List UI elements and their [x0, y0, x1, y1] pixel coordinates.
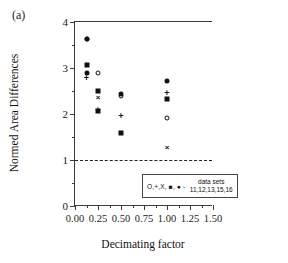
data-point-circle-filled [84, 37, 89, 42]
data-point-circle-filled [165, 78, 170, 83]
legend-text: data sets 11,12,13,15,16 [185, 178, 237, 194]
x-tick-major [75, 205, 76, 210]
x-tick-label: 0.50 [112, 213, 130, 224]
x-tick-major [98, 205, 99, 210]
legend-line-1: data sets [185, 178, 237, 186]
x-tick-major [121, 205, 122, 210]
x-tick-minor [133, 205, 134, 208]
x-tick-minor [110, 205, 111, 208]
x-tick-label: 0.25 [89, 213, 107, 224]
x-axis-title: Decimating factor [101, 238, 184, 250]
x-tick-label: 1.50 [204, 213, 222, 224]
x-tick-major [190, 205, 191, 210]
x-axis-line [74, 205, 212, 206]
data-point-circle-open [119, 93, 124, 98]
x-tick-major [167, 205, 168, 210]
y-tick-minor [72, 137, 75, 138]
figure-panel-a: (a) Normed Area Differences Decimating f… [0, 0, 288, 263]
data-point-square-filled [119, 130, 124, 135]
y-tick-minor [72, 45, 75, 46]
data-point-plus [164, 90, 171, 97]
legend-line-2: 11,12,13,15,16 [185, 186, 237, 194]
y-tick-major [70, 114, 75, 115]
x-tick-major [213, 205, 214, 210]
y-tick-major [70, 68, 75, 69]
x-tick-minor [202, 205, 203, 208]
x-tick-minor [179, 205, 180, 208]
data-point-circle-open [96, 70, 101, 75]
y-tick-label: 1 [63, 154, 69, 166]
data-point-circle-open [165, 115, 170, 120]
data-point-ex [164, 144, 171, 151]
x-tick-label: 0.00 [66, 213, 84, 224]
legend-box: O,+,X, ■, ● - data sets 11,12,13,15,16 [142, 174, 238, 198]
legend-symbols: O,+,X, ■, ● - [143, 183, 185, 190]
y-tick-major [70, 160, 75, 161]
x-tick-label: 1.25 [181, 213, 199, 224]
y-tick-label: 3 [63, 62, 69, 74]
x-tick-minor [87, 205, 88, 208]
data-point-square-filled [165, 97, 170, 102]
y-tick-minor [72, 91, 75, 92]
data-point-square-filled [96, 108, 101, 113]
data-point-ex [95, 94, 102, 101]
y-axis-title: Normed Area Differences [8, 54, 20, 173]
data-point-plus [83, 75, 90, 82]
data-point-square-filled [84, 62, 89, 67]
x-tick-label: 0.75 [135, 213, 153, 224]
data-point-plus [118, 113, 125, 120]
panel-label: (a) [12, 8, 25, 23]
y-tick-label: 2 [63, 108, 69, 120]
reference-line-y1 [75, 160, 212, 161]
x-tick-major [144, 205, 145, 210]
y-tick-label: 4 [63, 16, 69, 28]
x-tick-label: 1.00 [158, 213, 176, 224]
y-tick-major [70, 22, 75, 23]
x-tick-minor [156, 205, 157, 208]
y-tick-label: 0 [63, 200, 69, 212]
y-tick-minor [72, 183, 75, 184]
